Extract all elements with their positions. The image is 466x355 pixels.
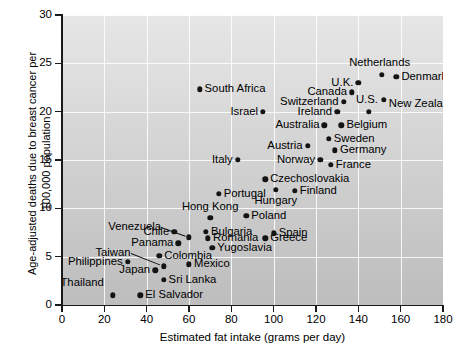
data-point <box>366 109 371 114</box>
data-point-label: Hong Kong <box>182 201 239 212</box>
data-point-label: Taiwan <box>95 248 130 259</box>
x-axis-line <box>61 305 444 307</box>
x-axis-tick <box>442 306 443 312</box>
data-point-label: Israel <box>230 106 258 117</box>
data-point <box>186 235 191 240</box>
data-point-label: Ireland <box>298 106 333 117</box>
gridline-horizontal <box>62 15 443 16</box>
data-point <box>326 136 331 141</box>
data-point <box>203 229 208 234</box>
data-point <box>328 162 333 167</box>
data-point-label: Venezuela <box>108 222 161 233</box>
data-point <box>381 97 386 102</box>
x-axis-tick <box>146 306 147 312</box>
data-point <box>322 122 327 127</box>
data-point-label: New Zealand <box>389 98 443 109</box>
y-axis-tick <box>55 159 62 160</box>
y-axis-tick <box>55 208 62 209</box>
x-axis-tick-label: 160 <box>381 314 421 326</box>
data-point <box>394 74 399 79</box>
data-point <box>349 90 354 95</box>
data-point <box>176 240 181 245</box>
data-point <box>273 187 278 192</box>
scatter-plot-figure: ThailandEl SalvadorPhilippinesJapanTaiwa… <box>0 0 466 355</box>
data-point <box>161 277 166 282</box>
data-point-label: South Africa <box>205 84 266 95</box>
y-axis-tick-label: 0 <box>0 299 52 311</box>
data-point <box>341 99 346 104</box>
y-axis-tick <box>55 14 62 15</box>
data-point-label: Finland <box>300 185 337 196</box>
data-point-label: Thailand <box>62 278 104 289</box>
data-point-label: Spain <box>279 228 308 239</box>
data-point <box>138 293 143 298</box>
data-point <box>318 157 323 162</box>
data-point <box>152 267 157 272</box>
data-point <box>216 191 221 196</box>
data-point <box>235 157 240 162</box>
data-point <box>334 109 339 114</box>
x-axis-tick <box>315 306 316 312</box>
data-point-label: Australia <box>276 120 320 131</box>
data-point <box>207 215 212 220</box>
data-point <box>305 143 310 148</box>
data-point-label: Denmark <box>401 71 443 82</box>
data-point <box>243 213 248 218</box>
data-point <box>210 245 215 250</box>
x-axis-tick-label: 180 <box>423 314 463 326</box>
data-point <box>356 80 361 85</box>
data-point <box>260 109 265 114</box>
data-point-label: Hungary <box>254 195 297 206</box>
x-axis-tick-label: 60 <box>169 314 209 326</box>
data-point-label: Norway <box>277 154 315 165</box>
y-axis-tick <box>55 256 62 257</box>
x-axis-tick <box>188 306 189 312</box>
data-point <box>262 236 267 241</box>
data-point-label: Yugoslavia <box>217 242 272 253</box>
data-point-label: Mexico <box>194 259 230 270</box>
x-axis-tick <box>400 306 401 312</box>
data-point-label: Italy <box>212 154 233 165</box>
y-axis-tick <box>55 63 62 64</box>
data-point-label: U.S. <box>356 94 378 105</box>
x-axis-tick-label: 20 <box>84 314 124 326</box>
x-axis-tick <box>273 306 274 312</box>
data-point <box>197 87 202 92</box>
x-axis-tick <box>104 306 105 312</box>
data-point-label: Germany <box>340 145 386 156</box>
x-axis-tick-label: 100 <box>254 314 294 326</box>
x-axis-title: Estimated fat intake (grams per day) <box>62 331 443 344</box>
data-point <box>262 177 267 182</box>
x-axis-tick-label: 80 <box>211 314 251 326</box>
data-point-label: Netherlands <box>349 57 410 68</box>
data-point <box>186 262 191 267</box>
data-point <box>339 122 344 127</box>
data-point-label: Austria <box>267 140 302 151</box>
data-point-label: Switzerland <box>280 96 338 107</box>
x-axis-tick-label: 40 <box>127 314 167 326</box>
data-point-label: El Salvador <box>145 290 203 301</box>
data-point <box>110 293 115 298</box>
x-axis-tick <box>358 306 359 312</box>
data-point <box>332 148 337 153</box>
plot-area: ThailandEl SalvadorPhilippinesJapanTaiwa… <box>62 15 443 305</box>
gridline-horizontal <box>62 160 443 161</box>
y-axis-tick-label: 30 <box>0 9 52 21</box>
data-point-label: U.K. <box>331 77 353 88</box>
data-point <box>205 236 210 241</box>
data-point <box>292 188 297 193</box>
data-point-label: Panama <box>131 237 173 248</box>
y-axis-tick <box>55 111 62 112</box>
x-axis-tick <box>231 306 232 312</box>
data-point-label: Canada <box>307 87 347 98</box>
data-point-label: Sri Lanka <box>169 274 217 285</box>
data-point-label: Poland <box>251 210 286 221</box>
data-point <box>379 72 384 77</box>
y-axis-title: Age-adjusted deaths due to breast cancer… <box>26 39 53 289</box>
data-point-label: Belgium <box>346 120 387 131</box>
data-point-label: Japan <box>119 265 150 276</box>
data-point-label: Sweden <box>334 133 375 144</box>
x-axis-tick <box>61 306 62 312</box>
data-point <box>161 264 166 269</box>
x-axis-tick-label: 140 <box>338 314 378 326</box>
